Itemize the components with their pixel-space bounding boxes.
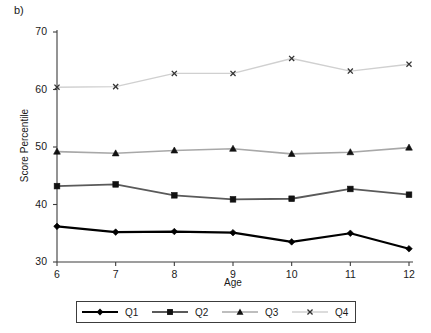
y-tick-label-60: 60 bbox=[23, 83, 47, 95]
x-tick-label-7: 7 bbox=[103, 268, 129, 280]
legend-entry-Q1[interactable]: Q1 bbox=[80, 302, 138, 322]
marker-diamond bbox=[112, 229, 119, 236]
x-tick-label-8: 8 bbox=[161, 268, 187, 280]
marker-diamond bbox=[347, 230, 354, 237]
legend-label-Q2: Q2 bbox=[195, 307, 208, 318]
chart-legend: Q1Q2Q3Q4 bbox=[76, 301, 356, 323]
marker-square bbox=[171, 192, 177, 198]
legend-entry-Q2[interactable]: Q2 bbox=[150, 302, 208, 322]
marker-square bbox=[406, 192, 412, 198]
legend-swatch-diamond-icon bbox=[80, 305, 120, 319]
legend-label-Q3: Q3 bbox=[265, 307, 278, 318]
marker-square bbox=[289, 196, 295, 202]
legend-entry-Q4[interactable]: Q4 bbox=[290, 302, 348, 322]
legend-swatch-x-icon bbox=[290, 305, 330, 319]
legend-label-Q4: Q4 bbox=[335, 307, 348, 318]
chart-figure: b) Score Percentile Age 3040506070 67891… bbox=[0, 0, 431, 333]
x-tick-label-12: 12 bbox=[396, 268, 422, 280]
y-tick-label-30: 30 bbox=[23, 255, 47, 267]
x-tick-label-6: 6 bbox=[44, 268, 70, 280]
x-tick-label-10: 10 bbox=[279, 268, 305, 280]
marker-square bbox=[230, 196, 236, 202]
marker-diamond bbox=[54, 223, 61, 230]
y-tick-label-40: 40 bbox=[23, 198, 47, 210]
panel-label: b) bbox=[14, 4, 24, 16]
marker-square bbox=[54, 183, 60, 189]
legend-swatch-square-icon bbox=[150, 305, 190, 319]
y-tick-label-50: 50 bbox=[23, 140, 47, 152]
marker-diamond bbox=[230, 229, 237, 236]
marker-diamond bbox=[171, 228, 178, 235]
legend-label-Q1: Q1 bbox=[125, 307, 138, 318]
marker-square bbox=[113, 182, 119, 188]
marker-square bbox=[347, 186, 353, 192]
x-tick-label-9: 9 bbox=[220, 268, 246, 280]
marker-diamond bbox=[288, 239, 295, 246]
x-tick-label-11: 11 bbox=[337, 268, 363, 280]
y-tick-label-70: 70 bbox=[23, 25, 47, 37]
legend-swatch-triangle-icon bbox=[220, 305, 260, 319]
marker-diamond bbox=[406, 245, 413, 252]
legend-entry-Q3[interactable]: Q3 bbox=[220, 302, 278, 322]
